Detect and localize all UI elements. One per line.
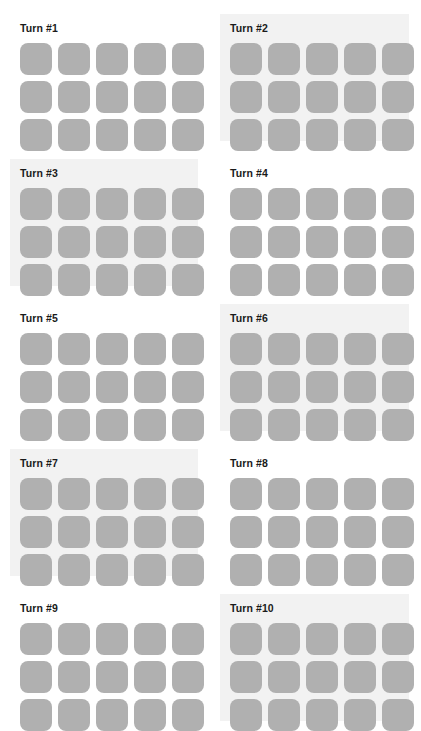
grid-tile[interactable] [20, 516, 52, 548]
grid-tile[interactable] [58, 623, 90, 655]
grid-tile[interactable] [134, 699, 166, 731]
grid-tile[interactable] [306, 623, 338, 655]
grid-tile[interactable] [96, 661, 128, 693]
grid-tile[interactable] [96, 81, 128, 113]
grid-tile[interactable] [382, 623, 414, 655]
grid-tile[interactable] [20, 478, 52, 510]
turn-panel-6[interactable]: Turn #6 [210, 290, 421, 435]
grid-tile[interactable] [344, 43, 376, 75]
grid-tile[interactable] [268, 226, 300, 258]
turn-panel-4[interactable]: Turn #4 [210, 145, 421, 290]
grid-tile[interactable] [306, 188, 338, 220]
grid-tile[interactable] [230, 371, 262, 403]
turn-panel-5[interactable]: Turn #5 [0, 290, 210, 435]
grid-tile[interactable] [306, 333, 338, 365]
grid-tile[interactable] [344, 81, 376, 113]
grid-tile[interactable] [20, 661, 52, 693]
grid-tile[interactable] [268, 81, 300, 113]
grid-tile[interactable] [20, 226, 52, 258]
grid-tile[interactable] [96, 699, 128, 731]
grid-tile[interactable] [382, 81, 414, 113]
turn-panel-2[interactable]: Turn #2 [210, 0, 421, 145]
grid-tile[interactable] [172, 81, 204, 113]
grid-tile[interactable] [306, 516, 338, 548]
grid-tile[interactable] [58, 661, 90, 693]
turn-panel-8[interactable]: Turn #8 [210, 435, 421, 580]
grid-tile[interactable] [58, 478, 90, 510]
grid-tile[interactable] [382, 43, 414, 75]
grid-tile[interactable] [344, 699, 376, 731]
grid-tile[interactable] [306, 371, 338, 403]
grid-tile[interactable] [344, 623, 376, 655]
grid-tile[interactable] [20, 333, 52, 365]
grid-tile[interactable] [134, 478, 166, 510]
grid-tile[interactable] [230, 516, 262, 548]
grid-tile[interactable] [20, 699, 52, 731]
grid-tile[interactable] [58, 43, 90, 75]
grid-tile[interactable] [382, 226, 414, 258]
grid-tile[interactable] [306, 661, 338, 693]
grid-tile[interactable] [20, 81, 52, 113]
grid-tile[interactable] [382, 371, 414, 403]
grid-tile[interactable] [344, 188, 376, 220]
grid-tile[interactable] [268, 333, 300, 365]
grid-tile[interactable] [306, 699, 338, 731]
grid-tile[interactable] [306, 226, 338, 258]
grid-tile[interactable] [134, 623, 166, 655]
grid-tile[interactable] [382, 333, 414, 365]
grid-tile[interactable] [96, 333, 128, 365]
grid-tile[interactable] [134, 661, 166, 693]
grid-tile[interactable] [96, 371, 128, 403]
grid-tile[interactable] [134, 226, 166, 258]
grid-tile[interactable] [172, 661, 204, 693]
grid-tile[interactable] [96, 188, 128, 220]
grid-tile[interactable] [268, 516, 300, 548]
turn-panel-7[interactable]: Turn #7 [0, 435, 210, 580]
grid-tile[interactable] [96, 623, 128, 655]
grid-tile[interactable] [172, 188, 204, 220]
grid-tile[interactable] [382, 661, 414, 693]
grid-tile[interactable] [58, 699, 90, 731]
grid-tile[interactable] [268, 478, 300, 510]
grid-tile[interactable] [20, 188, 52, 220]
grid-tile[interactable] [20, 371, 52, 403]
grid-tile[interactable] [172, 699, 204, 731]
grid-tile[interactable] [344, 661, 376, 693]
grid-tile[interactable] [268, 371, 300, 403]
grid-tile[interactable] [306, 478, 338, 510]
grid-tile[interactable] [344, 516, 376, 548]
grid-tile[interactable] [172, 478, 204, 510]
grid-tile[interactable] [58, 226, 90, 258]
grid-tile[interactable] [134, 516, 166, 548]
grid-tile[interactable] [382, 516, 414, 548]
grid-tile[interactable] [306, 81, 338, 113]
turn-panel-1[interactable]: Turn #1 [0, 0, 210, 145]
grid-tile[interactable] [230, 226, 262, 258]
grid-tile[interactable] [172, 516, 204, 548]
turn-panel-3[interactable]: Turn #3 [0, 145, 210, 290]
grid-tile[interactable] [134, 81, 166, 113]
grid-tile[interactable] [172, 371, 204, 403]
turn-panel-9[interactable]: Turn #9 [0, 580, 210, 725]
grid-tile[interactable] [230, 623, 262, 655]
grid-tile[interactable] [382, 699, 414, 731]
grid-tile[interactable] [268, 188, 300, 220]
grid-tile[interactable] [268, 699, 300, 731]
grid-tile[interactable] [134, 333, 166, 365]
grid-tile[interactable] [230, 478, 262, 510]
grid-tile[interactable] [268, 661, 300, 693]
grid-tile[interactable] [230, 81, 262, 113]
grid-tile[interactable] [268, 43, 300, 75]
grid-tile[interactable] [20, 623, 52, 655]
grid-tile[interactable] [172, 623, 204, 655]
grid-tile[interactable] [96, 226, 128, 258]
grid-tile[interactable] [96, 478, 128, 510]
grid-tile[interactable] [344, 333, 376, 365]
grid-tile[interactable] [58, 81, 90, 113]
grid-tile[interactable] [134, 43, 166, 75]
grid-tile[interactable] [230, 333, 262, 365]
grid-tile[interactable] [134, 371, 166, 403]
grid-tile[interactable] [172, 226, 204, 258]
grid-tile[interactable] [344, 371, 376, 403]
grid-tile[interactable] [96, 516, 128, 548]
